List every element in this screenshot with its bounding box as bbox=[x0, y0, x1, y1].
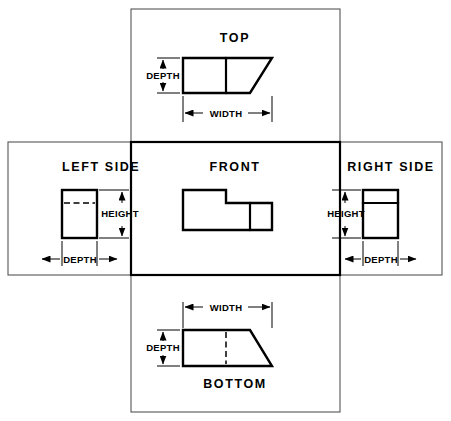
top-width-label: WIDTH bbox=[210, 108, 243, 119]
top-depth-label: DEPTH bbox=[146, 70, 180, 81]
bottom-depth-dimension: DEPTH bbox=[146, 330, 180, 366]
view-left-side: LEFT SIDE HEIGHT DEPTH bbox=[42, 160, 140, 266]
right-side-height-dimension: HEIGHT bbox=[327, 190, 365, 238]
bottom-depth-label: DEPTH bbox=[146, 342, 180, 353]
view-right-side: RIGHT SIDE HEIGHT DEPTH bbox=[327, 160, 435, 266]
top-depth-dimension: DEPTH bbox=[146, 58, 180, 93]
right-side-view-outline bbox=[363, 190, 398, 238]
front-view-outline bbox=[183, 190, 272, 230]
right-side-depth-dimension: DEPTH bbox=[345, 241, 416, 266]
left-side-depth-label: DEPTH bbox=[63, 254, 97, 265]
view-label-bottom: BOTTOM bbox=[203, 377, 267, 391]
left-side-height-dimension: HEIGHT bbox=[99, 190, 139, 238]
view-top: TOP DEPTH WIDTH bbox=[146, 31, 272, 122]
view-label-left-side: LEFT SIDE bbox=[62, 160, 140, 174]
left-side-height-label: HEIGHT bbox=[101, 208, 139, 219]
view-bottom: BOTTOM WIDTH DEPTH bbox=[146, 302, 272, 391]
left-side-view-outline bbox=[62, 190, 97, 238]
orthographic-projection-drawing: TOP DEPTH WIDTH LEFT SID bbox=[0, 0, 451, 421]
bottom-view-outline bbox=[183, 330, 272, 366]
top-width-dimension: WIDTH bbox=[183, 96, 272, 122]
bottom-width-dimension: WIDTH bbox=[183, 302, 272, 328]
top-view-outline bbox=[183, 58, 272, 93]
view-label-top: TOP bbox=[220, 31, 250, 45]
left-side-depth-dimension: DEPTH bbox=[42, 241, 117, 266]
view-label-front: FRONT bbox=[209, 160, 260, 174]
right-side-height-label: HEIGHT bbox=[327, 208, 365, 219]
view-label-right-side: RIGHT SIDE bbox=[347, 160, 435, 174]
right-side-depth-label: DEPTH bbox=[364, 254, 398, 265]
bottom-width-label: WIDTH bbox=[210, 302, 243, 313]
view-front: FRONT bbox=[183, 160, 272, 230]
